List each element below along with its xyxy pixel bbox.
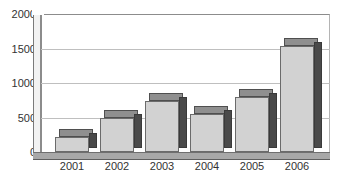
- y-tick-label: 1000: [0, 78, 36, 89]
- x-tick-label-2002: 2002: [105, 160, 129, 172]
- bar-front-2001: [55, 137, 89, 152]
- x-tick-label-2001: 2001: [60, 160, 84, 172]
- y-tick-label: 2000: [0, 9, 36, 20]
- y-tick-label: 500: [0, 112, 36, 123]
- y-axis-wall: [33, 14, 41, 160]
- x-tick-label-2003: 2003: [150, 160, 174, 172]
- bar-front-2006: [280, 46, 314, 152]
- x-axis-tick-labels: 2001 2002 2003 2004 2005 2006: [41, 160, 330, 176]
- bar-front-2004: [190, 114, 224, 152]
- bar-2005[interactable]: [235, 97, 269, 152]
- bar-chart: 2000 1500 1000 500 0: [0, 0, 346, 182]
- y-tick-label: 1500: [0, 43, 36, 54]
- bar-side-2002: [134, 114, 142, 148]
- y-tick-label: 0: [0, 147, 36, 158]
- bar-2002[interactable]: [100, 118, 134, 152]
- bar-2001[interactable]: [55, 137, 89, 152]
- y-axis-tick-labels: 2000 1500 1000 500 0: [0, 0, 36, 182]
- bar-top-2006: [284, 38, 318, 46]
- bar-front-2002: [100, 118, 134, 152]
- bar-front-2005: [235, 97, 269, 152]
- bar-top-2004: [194, 106, 228, 114]
- bar-side-2003: [179, 97, 187, 148]
- bar-side-2004: [224, 110, 232, 148]
- bar-side-2006: [314, 42, 322, 148]
- x-tick-label-2005: 2005: [240, 160, 264, 172]
- x-tick-label-2004: 2004: [195, 160, 219, 172]
- bar-top-2005: [239, 89, 273, 97]
- bar-front-2003: [145, 101, 179, 152]
- bar-top-2002: [104, 110, 138, 118]
- x-tick-label-2006: 2006: [285, 160, 309, 172]
- bar-2004[interactable]: [190, 114, 224, 152]
- bar-2003[interactable]: [145, 101, 179, 152]
- chart-floor: [33, 152, 330, 160]
- bar-side-2005: [269, 93, 277, 148]
- bar-side-2001: [89, 133, 97, 148]
- bar-2006[interactable]: [280, 46, 314, 152]
- y-axis-wall-cap: [32, 6, 44, 15]
- bar-top-2003: [149, 93, 183, 101]
- bar-top-2001: [59, 129, 93, 137]
- plot-area: [41, 14, 330, 152]
